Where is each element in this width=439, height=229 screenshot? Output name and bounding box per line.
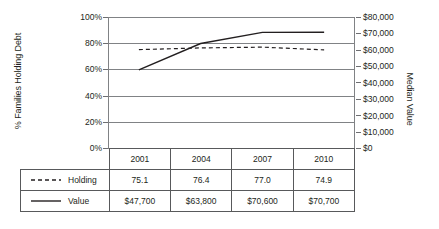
right-tick-mark <box>356 50 361 51</box>
right-tick-mark <box>356 66 361 67</box>
table-corner-cell <box>21 149 110 170</box>
right-tick-mark <box>356 33 361 34</box>
legend-cell-holding: Holding <box>21 170 110 191</box>
table-header-year: 2007 <box>232 149 293 170</box>
plot-area <box>108 17 355 148</box>
left-tick-label-20: 20% <box>64 117 102 127</box>
right-tick-label-80000: $80,000 <box>363 12 411 22</box>
right-tick-mark <box>356 17 361 18</box>
table-cell: $70,600 <box>232 191 293 212</box>
right-tick-mark <box>356 132 361 133</box>
table-cell: $70,700 <box>293 191 354 212</box>
right-tick-label-20000: $20,000 <box>363 111 411 121</box>
table-row: Holding 75.1 76.4 77.0 74.9 <box>21 170 355 191</box>
value-series-line <box>139 32 324 70</box>
right-tick-mark <box>356 99 361 100</box>
series-lines <box>108 17 355 148</box>
right-tick-label-70000: $70,000 <box>363 28 411 38</box>
legend-label-holding: Holding <box>68 175 97 185</box>
table-header-year: 2010 <box>293 149 354 170</box>
table-header-year: 2001 <box>109 149 170 170</box>
table-cell: 77.0 <box>232 170 293 191</box>
table-cell: $47,700 <box>109 191 170 212</box>
table-cell: $63,800 <box>171 191 232 212</box>
table-row-years: 2001 2004 2007 2010 <box>21 149 355 170</box>
right-tick-label-40000: $40,000 <box>363 78 411 88</box>
holding-series-line <box>139 47 324 50</box>
left-tick-label-40: 40% <box>64 91 102 101</box>
right-tick-label-50000: $50,000 <box>363 61 411 71</box>
right-tick-label-10000: $10,000 <box>363 127 411 137</box>
left-axis-title: % Families Holding Debt <box>13 6 23 156</box>
right-tick-mark <box>356 82 361 83</box>
right-tick-label-0: $0 <box>363 143 411 153</box>
right-tick-label-30000: $30,000 <box>363 94 411 104</box>
dashed-line-icon <box>31 176 61 184</box>
legend-cell-value: Value <box>21 191 110 212</box>
legend-label-value: Value <box>68 196 89 206</box>
chart-figure: % Families Holding Debt Median Value 100… <box>0 0 439 229</box>
left-tick-label-60: 60% <box>64 64 102 74</box>
table-row: Value $47,700 $63,800 $70,600 $70,700 <box>21 191 355 212</box>
data-table: 2001 2004 2007 2010 Holding 75.1 76.4 77… <box>20 148 355 212</box>
table-cell: 76.4 <box>171 170 232 191</box>
table-cell: 75.1 <box>109 170 170 191</box>
right-tick-mark <box>356 115 361 116</box>
table-cell: 74.9 <box>293 170 354 191</box>
right-tick-label-60000: $60,000 <box>363 45 411 55</box>
solid-line-icon <box>31 197 61 205</box>
right-tick-mark <box>356 148 361 149</box>
left-tick-label-100: 100% <box>64 12 102 22</box>
left-tick-label-80: 80% <box>64 38 102 48</box>
table-header-year: 2004 <box>171 149 232 170</box>
